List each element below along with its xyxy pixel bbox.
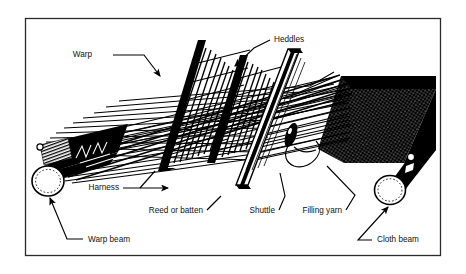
label-warp-beam: Warp beam — [88, 235, 130, 244]
label-reed-or-batten: Reed or batten — [149, 206, 204, 215]
loom-diagram-figure: Warp Heddles Harness Reed or batten Shut… — [0, 0, 466, 274]
label-cloth-beam: Cloth beam — [377, 235, 419, 244]
label-heddles: Heddles — [274, 35, 304, 44]
loom-diagram-svg: Warp Heddles Harness Reed or batten Shut… — [0, 0, 466, 274]
label-warp: Warp — [73, 50, 93, 59]
label-filling-yarn: Filling yarn — [302, 206, 342, 215]
label-harness: Harness — [89, 183, 120, 192]
label-shuttle: Shuttle — [250, 206, 276, 215]
